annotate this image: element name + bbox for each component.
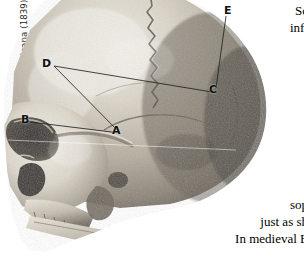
occipital-deep-shadow	[204, 46, 292, 194]
body-text-bottom-right: sop just as sh In medieval E	[180, 196, 304, 247]
body-text-line: Sc	[196, 2, 304, 19]
measurement-label-a: A	[112, 125, 121, 136]
measurement-label-c: C	[209, 84, 217, 95]
bone-sheen-1	[106, 38, 174, 82]
body-text-top-right: Sc infl i	[196, 2, 304, 53]
auditory-meatus	[108, 172, 128, 188]
body-text-line: i	[196, 36, 304, 53]
body-text-line: infl	[196, 19, 304, 36]
body-text-line: sop	[180, 196, 304, 213]
measurement-label-d: D	[42, 58, 51, 69]
body-text-line: In medieval E	[180, 230, 304, 247]
body-text-line: just as sh	[180, 213, 304, 230]
measurement-label-b: B	[21, 114, 29, 125]
bone-shade-1	[156, 134, 216, 170]
bone-sheen-2	[48, 134, 92, 166]
figure-page: Samuel Morton's Crania Americana (1839)	[0, 0, 304, 264]
